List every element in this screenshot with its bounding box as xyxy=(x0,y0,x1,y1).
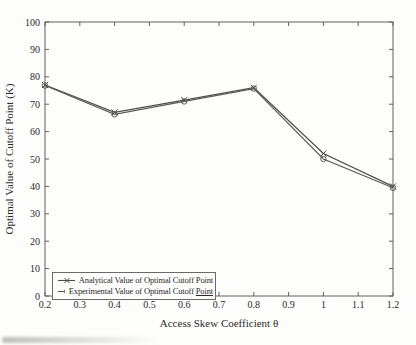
legend-label-analytical: Analytical Value of Optimal Cutoff Point xyxy=(79,276,213,285)
x-axis-tick-label: 0.3 xyxy=(74,299,87,310)
y-axis-tick-label: 100 xyxy=(25,17,40,28)
legend: Analytical Value of Optimal Cutoff Point… xyxy=(52,272,216,300)
x-axis-tick-label: 0.6 xyxy=(178,299,191,310)
cropped-caption-scan-artifact xyxy=(2,337,160,343)
y-axis-tick-label: 0 xyxy=(35,291,40,302)
x-axis-tick-label: 0.5 xyxy=(143,299,156,310)
y-axis-tick-label: 70 xyxy=(30,99,40,110)
x-axis-tick-label: 1 xyxy=(321,299,326,310)
x-axis-tick-label: 0.4 xyxy=(108,299,121,310)
y-axis-tick-label: 30 xyxy=(30,208,40,219)
plot-area: 0.20.30.40.50.60.70.80.911.11.2010203040… xyxy=(25,17,399,311)
legend-item-analytical: Analytical Value of Optimal Cutoff Point xyxy=(57,276,213,285)
x-axis-tick-label: 0.8 xyxy=(248,299,261,310)
x-axis-tick-label: 0.9 xyxy=(282,299,295,310)
y-axis-tick-label: 90 xyxy=(30,44,40,55)
x-marker xyxy=(320,151,326,157)
o-marker-sample xyxy=(57,287,65,296)
y-axis-tick-label: 60 xyxy=(30,126,40,137)
legend-label-experimental: Experimental Value of Optimal Cutoff Poi… xyxy=(69,287,213,296)
y-axis-tick-label: 10 xyxy=(30,263,40,274)
y-axis-tick-label: 40 xyxy=(30,181,40,192)
legend-item-experimental: Experimental Value of Optimal Cutoff Poi… xyxy=(57,287,213,296)
y-axis-tick-label: 50 xyxy=(30,154,40,165)
x-axis-tick-label: 0.2 xyxy=(39,299,52,310)
x-axis-tick-label: 1.2 xyxy=(387,299,400,310)
figure-root: Optimal Value of Cutoff Point (K) Access… xyxy=(0,0,416,345)
experimental-series-line xyxy=(45,86,393,188)
y-axis-tick-label: 20 xyxy=(30,236,40,247)
analytical-series-line xyxy=(45,85,393,186)
plot-border xyxy=(45,22,393,296)
y-axis-title: Optimal Value of Cutoff Point (K) xyxy=(3,83,16,234)
y-axis-tick-label: 80 xyxy=(30,71,40,82)
x-axis-tick-label: 0.7 xyxy=(213,299,226,310)
x-axis-title: Access Skew Coefficient θ xyxy=(160,317,278,329)
x-axis-tick-label: 1.1 xyxy=(352,299,365,310)
x-marker-sample xyxy=(57,276,75,285)
